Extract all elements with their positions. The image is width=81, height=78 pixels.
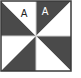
pinwheel-square-diagram: A A	[0, 0, 81, 78]
label-a-dark: A	[42, 6, 49, 17]
label-a-white: A	[21, 8, 28, 19]
